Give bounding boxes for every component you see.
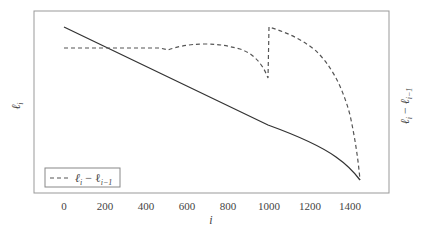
series-l-diff [64,27,360,180]
chart: 0 200 400 600 800 1000 1200 1400 i ℓi ℓi… [0,0,425,237]
x-tick-labels: 0 200 400 600 800 1000 1200 1400 [61,200,361,212]
svg-text:ℓi − ℓi−1: ℓi − ℓi−1 [398,88,414,125]
x-tick: 1200 [299,200,322,212]
x-tick: 200 [97,200,114,212]
x-tick: 1400 [339,200,362,212]
y-axis-label-right: ℓi − ℓi−1 [398,88,414,125]
svg-text:ℓi: ℓi [9,102,25,109]
x-tick: 0 [61,200,67,212]
y-axis-label-left: ℓi [9,102,25,109]
x-tick: 1000 [258,200,281,212]
x-tick: 600 [179,200,196,212]
x-tick: 400 [138,200,155,212]
x-axis-label: i [209,213,212,227]
y-left-sub: i [16,102,25,104]
x-tick: 800 [220,200,237,212]
legend: ℓi − ℓi−1 [45,168,120,187]
